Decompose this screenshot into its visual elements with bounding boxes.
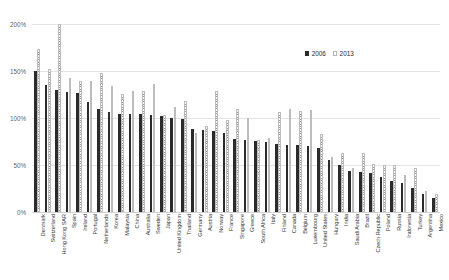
bar-2013[interactable] [121, 94, 124, 212]
bar-group [252, 24, 262, 212]
bar-2013[interactable] [69, 78, 72, 212]
bar-group [430, 24, 440, 212]
bar-2013[interactable] [310, 110, 313, 212]
bar-group [377, 24, 387, 212]
bar-2013[interactable] [247, 118, 250, 212]
x-axis-label-cell: Denmark [32, 214, 42, 278]
bar-2013[interactable] [257, 140, 260, 212]
bar-group [168, 24, 178, 212]
y-axis-tick-label: 50% [13, 162, 26, 169]
x-axis-label-cell: Australia [137, 214, 147, 278]
bar-group [220, 24, 230, 212]
x-axis-label-cell: Belgium [294, 214, 304, 278]
bar-2013[interactable] [425, 191, 428, 212]
bar-series-group [32, 24, 440, 212]
bar-2013[interactable] [195, 133, 198, 212]
bar-2013[interactable] [58, 24, 61, 212]
y-axis-tick-label: 100% [10, 115, 26, 122]
bar-2013[interactable] [268, 138, 271, 212]
bar-2013[interactable] [205, 126, 208, 212]
bar-2013[interactable] [153, 84, 156, 212]
x-axis-label-cell: South Africa [252, 214, 262, 278]
x-axis-label-cell: Switzerland [42, 214, 52, 278]
x-axis-label-cell: Thailand [179, 214, 189, 278]
x-axis-label-cell: Czech Republic [367, 214, 377, 278]
bar-2013[interactable] [414, 168, 417, 212]
x-axis-label-cell: France [220, 214, 230, 278]
chart-legend: 2006 2013 [305, 50, 354, 57]
bar-2013[interactable] [111, 86, 114, 212]
bar-group [262, 24, 272, 212]
bar-2013[interactable] [226, 120, 229, 212]
bar-group [419, 24, 429, 212]
bar-group [179, 24, 189, 212]
x-axis-label-cell: Norway [210, 214, 220, 278]
bar-2013[interactable] [184, 101, 187, 212]
x-axis-label-cell: Finland [273, 214, 283, 278]
bar-group [126, 24, 136, 212]
bar-2013[interactable] [435, 194, 438, 212]
bar-2013[interactable] [289, 109, 292, 212]
x-axis-label-cell: Indonesia [398, 214, 408, 278]
x-axis-label-cell: Ireland [74, 214, 84, 278]
bar-2013[interactable] [404, 175, 407, 212]
bar-group [116, 24, 126, 212]
bar-group [147, 24, 157, 212]
x-axis-label-cell: Mexico [430, 214, 440, 278]
bar-group [294, 24, 304, 212]
bar-2013[interactable] [174, 107, 177, 212]
bar-2013[interactable] [132, 91, 135, 212]
x-axis-label-cell: Canada [283, 214, 293, 278]
bar-group [95, 24, 105, 212]
legend-item-2006[interactable]: 2006 [305, 50, 326, 57]
x-axis-label-cell: Portugal [84, 214, 94, 278]
bar-2013[interactable] [341, 153, 344, 212]
bar-group [74, 24, 84, 212]
x-axis-label-cell: Hungary [325, 214, 335, 278]
bar-group [367, 24, 377, 212]
bar-group [357, 24, 367, 212]
bar-group [210, 24, 220, 212]
x-axis-label-cell: India [336, 214, 346, 278]
bar-2013[interactable] [37, 49, 40, 212]
bar-2013[interactable] [362, 153, 365, 212]
bar-2013[interactable] [383, 165, 386, 212]
chart-container: 0%50%100%150%200% DenmarkSwitzerlandHong… [0, 0, 449, 280]
bar-2013[interactable] [352, 168, 355, 212]
bar-2013[interactable] [236, 109, 239, 212]
bar-2013[interactable] [142, 91, 145, 212]
bar-2013[interactable] [100, 73, 103, 212]
x-axis-label-cell: United Kingdom [168, 214, 178, 278]
bar-group [53, 24, 63, 212]
x-axis-label-cell: Japan [158, 214, 168, 278]
x-axis-label-cell: Hong Kong SAR [53, 214, 63, 278]
plot-area [32, 24, 440, 212]
x-axis-label-cell: Germany [189, 214, 199, 278]
x-axis-label-cell: Italy [262, 214, 272, 278]
x-axis-label-cell: Turkey [409, 214, 419, 278]
bar-group [42, 24, 52, 212]
bar-2013[interactable] [215, 91, 218, 212]
bar-group [189, 24, 199, 212]
bar-2013[interactable] [278, 112, 281, 212]
bar-group [63, 24, 73, 212]
bar-group [231, 24, 241, 212]
bar-2013[interactable] [393, 165, 396, 212]
legend-item-2013[interactable]: 2013 [333, 50, 354, 57]
bar-2013[interactable] [90, 81, 93, 212]
bar-2013[interactable] [79, 81, 82, 212]
x-axis-label-cell: Russia [388, 214, 398, 278]
bar-2013[interactable] [163, 115, 166, 212]
bar-2013[interactable] [331, 157, 334, 212]
bar-2013[interactable] [320, 134, 323, 212]
bar-2013[interactable] [48, 69, 51, 212]
bar-group [283, 24, 293, 212]
bar-2013[interactable] [372, 164, 375, 212]
bar-group [84, 24, 94, 212]
legend-swatch-2006-icon [305, 51, 309, 55]
x-axis-label-cell: Singapore [231, 214, 241, 278]
bar-group [32, 24, 42, 212]
x-axis-tick-label: Mexico [438, 214, 444, 231]
bar-2013[interactable] [299, 111, 302, 212]
x-axis-labels: DenmarkSwitzerlandHong Kong SARSpainIrel… [32, 214, 440, 278]
